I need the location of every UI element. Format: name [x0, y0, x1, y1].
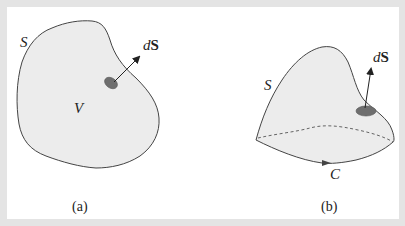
- differential-d-b: d: [373, 49, 381, 65]
- panel-a-closed-surface: [17, 21, 159, 168]
- curve-label: C: [330, 167, 340, 182]
- vector-s-b: S: [381, 49, 389, 65]
- surface-label-a: S: [20, 35, 28, 50]
- differential-d-a: d: [143, 37, 151, 53]
- volume-label: V: [74, 101, 83, 116]
- surface-label-b: S: [264, 78, 272, 93]
- normal-vector-arrow-b: [365, 69, 371, 108]
- surface-element-patch-b: [356, 106, 376, 116]
- surface-element-label-b: dS: [373, 50, 389, 65]
- caption-a: (a): [72, 200, 88, 214]
- diagram-canvas: [0, 0, 405, 226]
- vector-s-a: S: [151, 37, 159, 53]
- surface-element-label-a: dS: [143, 38, 159, 53]
- caption-b: (b): [321, 200, 337, 214]
